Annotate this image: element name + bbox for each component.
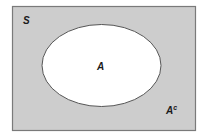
venn-diagram: S A Ac (0, 0, 205, 137)
universal-set-label: S (23, 15, 30, 26)
venn-svg: S A Ac (0, 0, 205, 137)
complement-superscript: c (173, 104, 177, 111)
complement-base: A (165, 105, 173, 116)
set-a-label: A (96, 61, 104, 72)
